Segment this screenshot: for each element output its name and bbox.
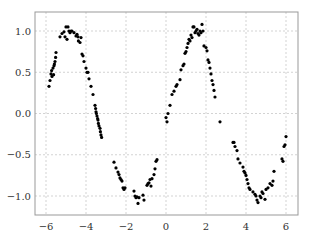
data-point	[164, 116, 167, 119]
data-point	[84, 67, 87, 70]
data-point	[62, 30, 65, 33]
data-point	[254, 194, 257, 197]
y-tick-label: 1.0	[15, 26, 31, 37]
data-point	[207, 61, 210, 64]
data-point	[182, 62, 185, 65]
data-point	[236, 157, 239, 160]
data-point	[142, 199, 145, 202]
data-point	[63, 35, 66, 38]
data-point	[54, 56, 57, 59]
data-point	[210, 79, 213, 82]
data-point	[186, 42, 189, 45]
data-point	[201, 29, 204, 32]
data-point	[141, 194, 144, 197]
data-point	[48, 79, 51, 82]
data-point	[82, 60, 85, 63]
data-point	[72, 31, 75, 34]
data-point	[200, 23, 203, 26]
data-point	[76, 35, 79, 38]
data-point	[100, 136, 103, 139]
data-point	[283, 143, 286, 146]
data-point	[179, 68, 182, 71]
data-point	[94, 107, 97, 110]
data-point	[149, 185, 152, 188]
data-point	[166, 112, 169, 115]
data-point	[175, 83, 178, 86]
data-point	[150, 177, 153, 180]
data-point	[248, 188, 251, 191]
data-point	[266, 186, 269, 189]
data-point	[246, 182, 249, 185]
data-point	[78, 41, 81, 44]
data-point	[281, 160, 284, 163]
x-tick-label: 2	[203, 221, 209, 232]
data-point	[91, 93, 94, 96]
data-point	[93, 104, 96, 107]
data-point	[213, 95, 216, 98]
data-point	[218, 120, 221, 123]
data-point	[192, 25, 195, 28]
data-point	[112, 161, 115, 164]
data-point	[117, 173, 120, 176]
data-point	[147, 181, 150, 184]
data-point	[132, 190, 135, 193]
data-point	[79, 36, 82, 39]
data-point	[168, 104, 171, 107]
data-point	[152, 173, 155, 176]
data-point	[58, 35, 61, 38]
data-point	[47, 85, 50, 88]
data-point	[235, 149, 238, 152]
data-point	[284, 135, 287, 138]
x-tick-label: −2	[119, 221, 134, 232]
data-point	[54, 51, 57, 54]
data-point	[86, 71, 89, 74]
data-point	[204, 46, 207, 49]
data-point	[263, 198, 266, 201]
data-point	[178, 78, 181, 81]
y-tick-label: 0.0	[15, 108, 31, 119]
data-point	[98, 127, 101, 130]
data-point	[155, 158, 158, 161]
x-tick-label: −4	[79, 221, 94, 232]
y-axis-ticks: 1.00.50.0−0.5−1.0	[7, 26, 31, 202]
data-point	[272, 170, 275, 173]
data-point	[259, 196, 262, 199]
data-point	[65, 38, 68, 41]
data-point	[52, 73, 55, 76]
data-point	[211, 83, 214, 86]
y-tick-label: 0.5	[15, 67, 31, 78]
data-point	[53, 60, 56, 63]
data-point	[87, 77, 90, 80]
data-point	[245, 178, 248, 181]
data-point	[170, 93, 173, 96]
data-point	[212, 89, 215, 92]
data-point	[120, 180, 123, 183]
x-tick-label: −6	[39, 221, 54, 232]
data-point	[185, 46, 188, 49]
data-point	[172, 90, 175, 93]
data-point	[270, 184, 273, 187]
data-point	[241, 166, 244, 169]
data-point	[190, 36, 193, 39]
data-point	[271, 180, 274, 183]
data-point	[136, 202, 139, 205]
data-point	[261, 192, 264, 195]
data-point	[96, 119, 99, 122]
data-point	[165, 120, 168, 123]
data-point	[114, 166, 117, 169]
scatter-chart: −6−4−20246 1.00.50.0−0.5−1.0	[0, 0, 312, 247]
data-point	[153, 167, 156, 170]
data-point	[188, 39, 191, 42]
y-tick-label: −0.5	[7, 149, 31, 160]
data-point	[99, 130, 102, 133]
x-tick-label: 0	[163, 221, 169, 232]
data-point	[89, 85, 92, 88]
data-point	[232, 141, 235, 144]
y-tick-label: −1.0	[7, 191, 31, 202]
data-point	[233, 145, 236, 148]
data-point	[123, 186, 126, 189]
data-point	[195, 28, 198, 31]
data-point	[137, 196, 140, 199]
data-point	[66, 25, 69, 28]
data-point	[238, 161, 241, 164]
